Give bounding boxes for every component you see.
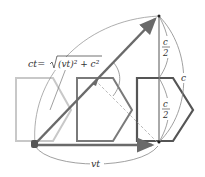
bottom-point	[158, 141, 161, 144]
origin-point	[31, 140, 38, 148]
label-ct-rhs: (vt)² + c²	[58, 59, 100, 69]
label-half-top-den: 2	[162, 48, 168, 58]
label-ct-lhs: ct=	[28, 58, 45, 69]
label-leader	[50, 63, 68, 110]
dashed-guide-line	[95, 80, 158, 143]
label-vt: vt	[91, 158, 100, 169]
label-half-bot-num: c	[163, 99, 168, 109]
light-clock-diagram: ct= (vt)² + c² c 2 c 2 c vt	[0, 0, 205, 177]
top-point	[158, 15, 161, 18]
label-half-bot-den: 2	[162, 110, 168, 120]
label-full-c: c	[181, 73, 186, 83]
label-half-top-num: c	[163, 37, 168, 47]
middle-pentagon	[77, 78, 132, 141]
ghost-pentagon	[16, 78, 71, 141]
